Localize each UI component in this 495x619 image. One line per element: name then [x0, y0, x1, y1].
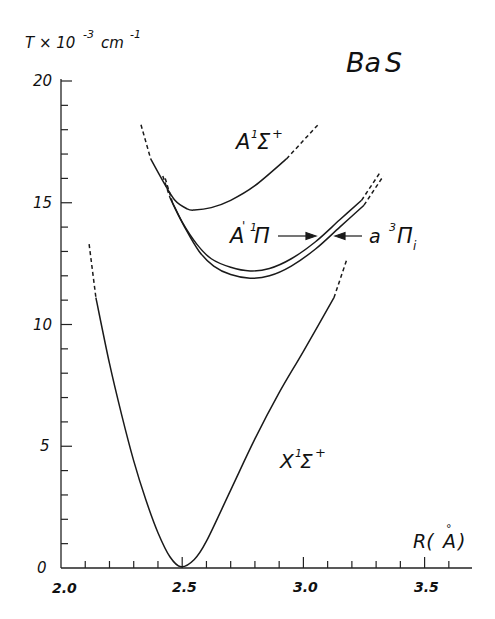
label-A-sigma: A 1 Σ + [234, 126, 283, 154]
label-a-pi-sym: Π [397, 224, 413, 248]
chart-title: Ba S [346, 47, 402, 78]
label-Aprime-pi: A ' 1 Π [228, 219, 270, 248]
curves [89, 125, 383, 567]
label-X-sigma-sym: Σ [300, 449, 313, 473]
y-tick-label-15: 15 [33, 194, 52, 212]
curve-0-dashed-left [89, 244, 96, 298]
x-tick-label-3.0: 3.0 [293, 579, 318, 595]
chart-title-ba: Ba [346, 47, 381, 78]
label-X-sigma-sup2: + [315, 445, 326, 460]
arrow-right-head [306, 233, 316, 240]
label-Aprime-pi-sym: Π [254, 224, 270, 248]
x-tick-label-2.5: 2.5 [172, 579, 197, 595]
curve-3-dashed-right [364, 176, 383, 205]
x-tick-label-3.5: 3.5 [414, 579, 439, 595]
label-X-sigma-main: X [279, 449, 295, 473]
y-axis-title-unit: cm [101, 34, 124, 52]
arrow-left-head [335, 233, 345, 240]
label-A-sigma-main: A [234, 130, 250, 154]
label-X-sigma: X 1 Σ + [279, 445, 326, 473]
label-A-sigma-sup2: + [272, 126, 283, 141]
y-axis-title-base: T × 10 [25, 34, 75, 52]
y-axis-title: T × 10 -3 cm -1 [25, 28, 141, 52]
label-a-pi-sup: 3 [389, 221, 396, 234]
y-tick-label-20: 20 [33, 72, 52, 90]
y-axis-ticks [61, 81, 72, 544]
y-tick-label-0: 0 [37, 559, 47, 577]
y-tick-labels: 20 15 10 5 0 [33, 72, 52, 577]
label-a-pi-sub: i [413, 239, 417, 253]
x-axis-title-close: ) [456, 530, 465, 552]
label-A-sigma-sym: Σ [257, 130, 271, 154]
y-tick-label-10: 10 [33, 316, 52, 334]
y-axis-title-unit-exp: -1 [130, 28, 141, 41]
curve-0-solid [96, 298, 334, 567]
curve-1-dashed-right [286, 125, 318, 159]
chart-title-s: S [385, 47, 402, 78]
y-axis-title-exp: -3 [83, 28, 94, 41]
y-tick-label-5: 5 [40, 437, 50, 455]
x-axis-ticks [85, 557, 449, 568]
curve-2-dashed-right [362, 171, 381, 200]
curve-1-solid [151, 159, 287, 210]
curve-0-dashed-right [334, 259, 347, 298]
curve-1-dashed-left [141, 125, 151, 159]
x-tick-labels: 2.0 2.5 3.0 3.5 [52, 579, 439, 596]
label-Aprime-pi-prime: ' [242, 219, 245, 233]
label-a-pi-main: a [369, 225, 381, 247]
x-axis-title: R( A ° ) [413, 522, 465, 552]
x-axis-title-r: R( [413, 530, 435, 552]
arrow-a-pi [335, 233, 362, 240]
potential-energy-chart: 20 15 10 5 0 2.0 2.5 3.0 3.5 T × 10 -3 c… [0, 0, 495, 619]
x-axis-title-ring: ° [446, 522, 452, 535]
arrow-Aprime-pi [278, 233, 316, 240]
x-tick-label-2.0: 2.0 [52, 580, 77, 596]
label-a-pi: a 3 Π i [369, 221, 417, 253]
